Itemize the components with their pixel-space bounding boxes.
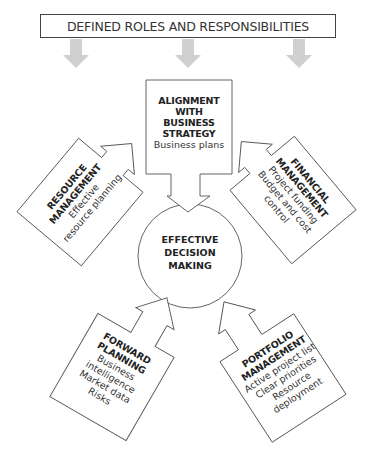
center-line: MAKING	[140, 260, 240, 273]
alignment-node-label: ALIGNMENT WITH BUSINESS STRATEGY Busines…	[146, 96, 232, 151]
banner-arrows	[63, 39, 312, 68]
down-arrow-icon	[175, 39, 201, 68]
down-arrow-icon	[286, 39, 312, 68]
center-line: DECISION	[140, 247, 240, 260]
center-label: EFFECTIVE DECISION MAKING	[140, 234, 240, 272]
down-arrow-icon	[63, 39, 89, 68]
defined-roles-banner: DEFINED ROLES AND RESPONSIBILITIES	[40, 14, 336, 38]
center-line: EFFECTIVE	[140, 234, 240, 247]
node-subtitle: Business plans	[146, 140, 232, 151]
